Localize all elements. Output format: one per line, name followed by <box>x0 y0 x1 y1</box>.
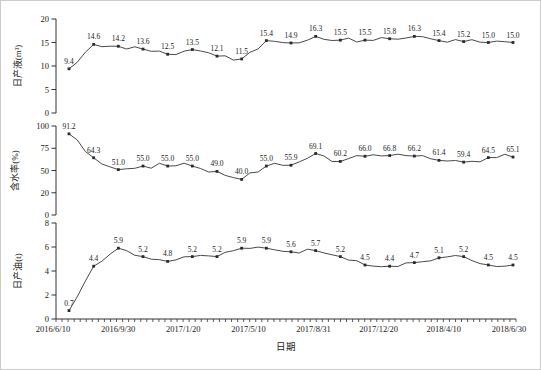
y-tick-label: 4 <box>45 266 50 276</box>
data-point-label: 14.2 <box>112 34 125 43</box>
data-point-label: 14.6 <box>87 32 100 41</box>
data-point-label: 15.5 <box>334 28 347 37</box>
data-point-label: 16.3 <box>309 24 322 33</box>
data-point-label: 12.5 <box>161 42 174 51</box>
data-point-marker <box>92 156 95 159</box>
data-point-label: 59.4 <box>457 150 470 159</box>
data-point-marker <box>240 247 243 250</box>
data-point-marker <box>68 67 71 70</box>
data-point-label: 4.4 <box>385 254 395 263</box>
data-point-label: 40.0 <box>235 167 248 176</box>
data-point-marker <box>290 250 293 253</box>
y-axis: 0205075100 <box>36 121 56 220</box>
data-point-label: 4.5 <box>508 253 518 262</box>
data-point-marker <box>314 249 317 252</box>
data-point-marker <box>314 152 317 155</box>
x-tick-label: 2016/9/30 <box>101 324 135 334</box>
data-point-marker <box>265 165 268 168</box>
chart-canvas: 日期 05101520日产液(m³)9.414.614.213.612.513.… <box>1 1 541 370</box>
y-tick-label: 0 <box>45 108 49 118</box>
data-point-marker <box>438 256 441 259</box>
data-point-label: 64.3 <box>87 146 100 155</box>
data-point-label: 51.0 <box>112 158 125 167</box>
y-tick-label: 20 <box>41 14 50 24</box>
data-point-marker <box>462 40 465 43</box>
data-point-label: 5.2 <box>188 245 198 254</box>
data-point-marker <box>413 35 416 38</box>
data-point-marker <box>117 168 120 171</box>
x-tick-label: 2018/6/30 <box>492 324 526 334</box>
data-point-label: 15.4 <box>260 29 273 38</box>
data-point-marker <box>364 39 367 42</box>
y-tick-label: 20 <box>41 188 50 198</box>
data-point-marker <box>487 156 490 159</box>
y-tick-label: 100 <box>36 121 49 131</box>
data-point-label: 11.5 <box>235 47 248 56</box>
data-point-label: 16.3 <box>408 24 421 33</box>
data-point-label: 55.0 <box>161 154 174 163</box>
y-tick-label: 0 <box>45 314 49 324</box>
data-point-marker <box>166 260 169 263</box>
data-point-marker <box>166 165 169 168</box>
data-point-label: 49.0 <box>210 159 223 168</box>
data-point-marker <box>388 37 391 40</box>
data-point-label: 5.2 <box>459 245 469 254</box>
y-axis-title: 日产油(t) <box>12 253 23 289</box>
data-point-label: 5.9 <box>262 236 272 245</box>
data-point-label: 4.5 <box>360 253 370 262</box>
x-tick-label: 2016/6/10 <box>36 324 70 334</box>
data-point-marker <box>413 261 416 264</box>
data-point-marker <box>265 39 268 42</box>
data-point-marker <box>117 45 120 48</box>
data-point-label: 66.2 <box>408 144 421 153</box>
x-tick-label: 2017/8/31 <box>296 324 330 334</box>
data-point-marker <box>92 43 95 46</box>
x-tick-label: 2017/1/20 <box>166 324 200 334</box>
data-point-marker <box>487 264 490 267</box>
data-point-marker <box>166 53 169 56</box>
data-point-marker <box>512 41 515 44</box>
data-point-label: 5.7 <box>311 239 321 248</box>
data-point-label: 5.1 <box>434 246 444 255</box>
data-point-marker <box>142 165 145 168</box>
data-point-marker <box>240 178 243 181</box>
data-point-label: 14.9 <box>284 31 297 40</box>
data-point-label: 5.9 <box>237 236 247 245</box>
data-point-label: 65.1 <box>506 145 519 154</box>
x-tick-label: 2017/5/10 <box>231 324 265 334</box>
production-curves-figure: 日期 05101520日产液(m³)9.414.614.213.612.513.… <box>0 0 541 370</box>
y-tick-label: 6 <box>45 242 49 252</box>
y-tick-label: 2 <box>45 290 49 300</box>
data-point-marker <box>388 265 391 268</box>
data-point-marker <box>462 255 465 258</box>
data-point-label: 4.8 <box>163 249 173 258</box>
data-point-label: 69.1 <box>309 142 322 151</box>
data-point-marker <box>216 170 219 173</box>
data-point-marker <box>68 132 71 135</box>
data-point-label: 0.7 <box>64 299 74 308</box>
data-point-marker <box>413 155 416 158</box>
data-point-label: 12.1 <box>210 44 223 53</box>
y-axis-title: 含水率(%) <box>9 150 20 191</box>
x-axis: 2016/6/102016/9/302017/1/202017/5/102017… <box>36 319 526 334</box>
data-point-label: 55.0 <box>136 154 149 163</box>
data-point-label: 91.2 <box>62 122 75 131</box>
data-point-marker <box>68 309 71 312</box>
y-axis-title: 日产液(m³) <box>12 45 23 88</box>
data-point-marker <box>512 264 515 267</box>
data-point-marker <box>438 159 441 162</box>
x-tick-label: 2017/12/20 <box>359 324 398 334</box>
data-point-label: 60.2 <box>334 149 347 158</box>
data-point-marker <box>339 160 342 163</box>
data-point-label: 15.4 <box>432 29 445 38</box>
data-point-label: 15.0 <box>506 31 519 40</box>
data-point-marker <box>142 255 145 258</box>
data-point-marker <box>290 42 293 45</box>
data-point-label: 5.2 <box>212 245 222 254</box>
data-point-label: 13.5 <box>186 38 199 47</box>
data-point-marker <box>512 156 515 159</box>
data-point-label: 55.0 <box>186 154 199 163</box>
data-point-marker <box>364 264 367 267</box>
data-point-label: 15.0 <box>482 31 495 40</box>
data-point-label: 55.0 <box>260 154 273 163</box>
